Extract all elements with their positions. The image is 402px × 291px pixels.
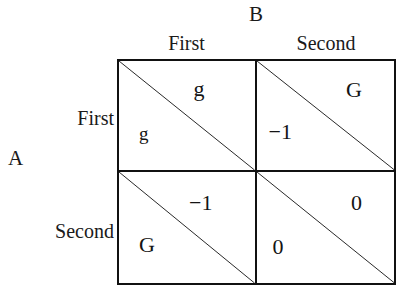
cell-diagonal-icon — [119, 61, 255, 170]
payoff-row-player: g — [139, 124, 149, 143]
payoff-column-player: g — [194, 78, 205, 100]
payoff-row-player: 0 — [273, 236, 284, 258]
column-header-first: First — [117, 33, 256, 53]
cell-diagonal-icon — [119, 172, 255, 283]
row-header-second: Second — [4, 221, 114, 241]
figure-canvas: B A First Second First Second g g G −1 −… — [0, 0, 402, 291]
cell-diagonal-icon — [257, 172, 395, 283]
payoff-column-player: G — [346, 79, 362, 101]
payoff-matrix: g g G −1 −1 G 0 0 — [117, 59, 396, 285]
payoff-column-player: −1 — [189, 192, 212, 214]
column-header-second: Second — [256, 33, 396, 53]
matrix-cell-first-first: g g — [119, 61, 257, 172]
matrix-cell-first-second: G −1 — [257, 61, 395, 172]
payoff-row-player: −1 — [269, 121, 292, 143]
cell-diagonal-icon — [257, 61, 395, 170]
row-player-label: A — [8, 148, 23, 169]
matrix-cell-second-second: 0 0 — [257, 172, 395, 283]
column-player-label: B — [55, 4, 402, 25]
payoff-column-player: 0 — [351, 192, 362, 214]
matrix-cell-second-first: −1 G — [119, 172, 257, 283]
payoff-row-player: G — [139, 234, 155, 256]
row-header-first: First — [4, 108, 114, 128]
